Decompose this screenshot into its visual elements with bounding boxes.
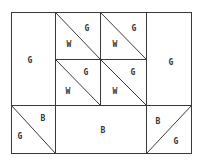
fabric-label-hst-bottom-right: G [174, 137, 179, 146]
diagonal-mid-left [56, 60, 101, 106]
piece-labels: GGGWGWGWGWBGBBG [18, 24, 179, 146]
fabric-label-right-rect: G [169, 58, 174, 67]
fabric-label-hst-bottom-left: B [41, 114, 46, 123]
diagonal-bottom-right [147, 106, 192, 154]
diagonal-mid-right [101, 60, 147, 106]
diagonal-top-left [56, 13, 101, 60]
fabric-label-hst-top-right: W [113, 40, 118, 49]
fabric-label-hst-mid-right: W [113, 87, 118, 96]
fabric-label-hst-top-left: G [85, 24, 90, 33]
fabric-label-hst-mid-left: G [84, 68, 89, 77]
fabric-label-hst-mid-right: G [131, 68, 136, 77]
quilt-block-diagram: GGGWGWGWGWBGBBG [0, 0, 200, 164]
fabric-label-hst-top-right: G [132, 24, 137, 33]
fabric-label-hst-bottom-left: G [18, 132, 23, 141]
diagonal-top-right [101, 13, 147, 60]
fabric-label-left-rect: G [28, 56, 33, 65]
fabric-label-hst-bottom-right: B [156, 117, 161, 126]
fabric-label-bottom-center-rect: B [101, 126, 106, 135]
diagonal-bottom-left [12, 106, 56, 154]
fabric-label-hst-mid-left: W [66, 87, 71, 96]
fabric-label-hst-top-left: W [67, 40, 72, 49]
